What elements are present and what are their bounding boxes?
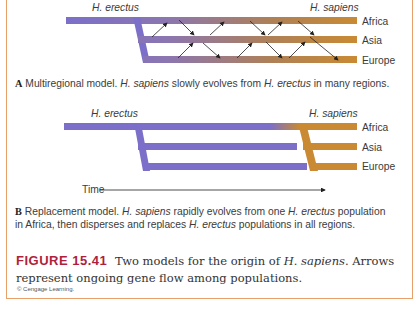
caption-b-letter: B xyxy=(15,206,22,217)
figure-italic: H. sapiens xyxy=(284,254,345,268)
region-asia-a: Asia xyxy=(362,34,382,47)
caption-b-italic: H. sapiens xyxy=(122,206,171,217)
caption-a-text: Multiregional model. xyxy=(22,78,120,89)
region-europe-a: Europe xyxy=(362,54,395,67)
caption-a: A Multiregional model. H. sapiens slowly… xyxy=(15,77,389,90)
replacement-diagram xyxy=(64,123,357,190)
label-h-erectus-b: H. erectus xyxy=(91,107,138,120)
region-europe-b: Europe xyxy=(362,160,395,173)
caption-b: B Replacement model. H. sapiens rapidly … xyxy=(15,205,385,231)
region-africa-a: Africa xyxy=(362,15,388,28)
multiregional-diagram xyxy=(66,17,357,63)
region-asia-b: Asia xyxy=(362,141,382,154)
caption-b-text: populations in all regions. xyxy=(236,219,355,230)
caption-b-text: Replacement model. xyxy=(22,206,122,217)
label-h-sapiens-a: H. sapiens xyxy=(310,1,359,14)
figure-number: FIGURE 15.41 xyxy=(16,253,107,268)
caption-a-italic: H. sapiens xyxy=(120,78,169,89)
figure-caption: FIGURE 15.41 Two models for the origin o… xyxy=(16,252,411,287)
copyright-credit: © Cengage Learning. xyxy=(17,286,74,292)
caption-a-text: slowly evolves from xyxy=(169,78,264,89)
caption-b-italic: H. erectus xyxy=(288,206,335,217)
region-africa-b: Africa xyxy=(362,121,388,134)
caption-b-text: population xyxy=(335,206,385,217)
figure-text: Two models for the origin of xyxy=(115,254,284,268)
caption-b-text: in Africa, then disperses and replaces xyxy=(15,219,189,230)
caption-a-italic: H. erectus xyxy=(264,78,311,89)
caption-b-italic: H. erectus xyxy=(189,219,236,230)
label-h-sapiens-b: H. sapiens xyxy=(309,107,358,120)
time-label: Time xyxy=(82,183,105,196)
caption-a-text: in many regions. xyxy=(311,78,389,89)
caption-b-text: rapidly evolves from one xyxy=(171,206,288,217)
label-h-erectus-a: H. erectus xyxy=(92,1,139,14)
